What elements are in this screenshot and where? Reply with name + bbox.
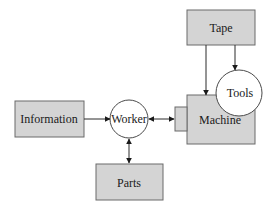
tools-label: Tools	[227, 86, 254, 100]
parts-label: Parts	[117, 176, 141, 190]
parts-node: Parts	[96, 164, 163, 200]
tape-node: Tape	[187, 10, 255, 45]
information-node: Information	[15, 101, 84, 137]
machine-input-port	[175, 107, 187, 131]
information-label: Information	[20, 112, 77, 126]
worker-label: Worker	[111, 112, 147, 126]
manufacturing-diagram: Tape Machine Tools Information Worker Pa…	[0, 0, 268, 208]
worker-node: Worker	[110, 100, 148, 138]
tape-label: Tape	[209, 21, 232, 35]
tools-node: Tools	[216, 70, 262, 116]
